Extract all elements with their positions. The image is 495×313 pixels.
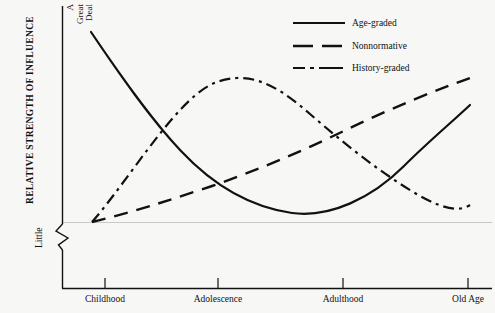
- x-tick-label-adulthood: Adulthood: [323, 294, 364, 304]
- legend-label-history-graded: History-graded: [352, 63, 410, 73]
- y-axis-top-label-line-3: Deal: [85, 4, 95, 48]
- y-axis-label: RELATIVE STRENGTH OF INFLUENCE: [25, 0, 35, 225]
- legend-label-nonnormative: Nonnormative: [352, 41, 407, 51]
- y-axis-bottom-label: Little: [34, 227, 44, 248]
- x-tick-label-old-age: Old Age: [452, 294, 484, 304]
- legend-label-age-graded: Age-graded: [352, 18, 397, 28]
- x-tick-label-adolescence: Adolescence: [194, 294, 243, 304]
- y-axis-top-label: A Great Deal: [66, 4, 95, 48]
- x-tick-label-childhood: Childhood: [85, 294, 125, 304]
